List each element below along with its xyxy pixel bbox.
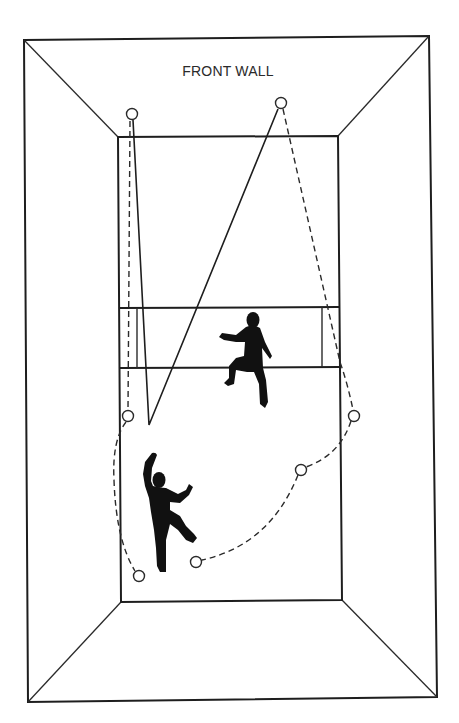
dashed-shot-left-curve bbox=[114, 422, 135, 571]
corner-line-bottom-right bbox=[342, 600, 437, 697]
front-wall-label: FRONT WALL bbox=[182, 63, 273, 79]
bounce-point-icon bbox=[123, 411, 134, 422]
bounce-point-icon bbox=[296, 465, 307, 476]
corner-line-top-right bbox=[338, 36, 429, 136]
dashed-shot-right-descent bbox=[283, 109, 353, 410]
racquetball-court-diagram: FRONT WALL bbox=[0, 0, 459, 723]
corner-line-bottom-left bbox=[28, 602, 121, 702]
solid-shot-path bbox=[133, 109, 278, 425]
bounce-point-icon bbox=[349, 411, 360, 422]
bounce-point-icon bbox=[127, 109, 138, 120]
dashed-shot-right-to-mid bbox=[306, 421, 351, 467]
player-front-silhouette-icon bbox=[219, 312, 272, 408]
bounce-point-icon bbox=[191, 557, 202, 568]
bounce-point-icon bbox=[276, 98, 287, 109]
corner-line-top-left bbox=[24, 40, 118, 137]
service-line bbox=[119, 307, 339, 308]
bounce-point-icon bbox=[134, 571, 145, 582]
player-back-silhouette-icon bbox=[143, 453, 197, 572]
dashed-shot-left-vertical bbox=[128, 121, 130, 410]
dashed-shot-mid-to-back bbox=[202, 475, 298, 560]
